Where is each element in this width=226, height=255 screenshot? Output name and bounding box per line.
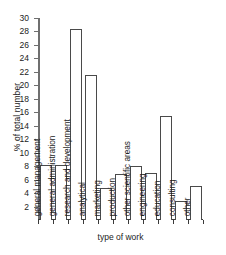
- y-tick-label: 2: [24, 203, 29, 212]
- y-tick: 28: [34, 31, 38, 32]
- bar-category-label: analytical: [79, 182, 87, 216]
- x-tick: [38, 220, 39, 224]
- y-tick: 14: [34, 126, 38, 127]
- y-tick-label: 22: [20, 68, 29, 77]
- y-tick-label: 30: [20, 14, 29, 23]
- y-tick-label: 8: [24, 162, 29, 171]
- bar-category-label: education: [154, 180, 162, 216]
- bar-category-label: production: [109, 178, 117, 216]
- x-tick: [68, 220, 69, 224]
- bar-category-label: other: [184, 197, 192, 216]
- y-tick-label: 20: [20, 81, 29, 90]
- x-axis-title: type of work: [38, 232, 203, 242]
- y-tick: 30: [34, 18, 38, 19]
- y-tick: 18: [34, 99, 38, 100]
- bar-category-label: general management: [34, 139, 42, 216]
- y-tick: 26: [34, 45, 38, 46]
- bar-category-label: engineering: [139, 173, 147, 216]
- bar-category-label: research and development: [64, 119, 72, 216]
- y-tick-label: 24: [20, 54, 29, 63]
- x-tick: [53, 220, 54, 224]
- bar-category-label: general administration: [49, 135, 57, 216]
- x-tick: [98, 220, 99, 224]
- y-tick-label: 16: [20, 108, 29, 117]
- y-tick-label: 4: [24, 189, 29, 198]
- y-tick-label: 26: [20, 41, 29, 50]
- x-tick: [203, 220, 204, 224]
- y-tick-label: 28: [20, 27, 29, 36]
- y-tick-label: 10: [20, 149, 29, 158]
- x-tick: [143, 220, 144, 224]
- x-tick: [173, 220, 174, 224]
- x-tick: [188, 220, 189, 224]
- bar-category-label: marketing: [94, 180, 102, 216]
- bar-chart: % of total number 2468101214161820222426…: [0, 0, 226, 255]
- plot-area: 24681012141618202224262830 general manag…: [38, 18, 203, 220]
- x-tick: [113, 220, 114, 224]
- x-tick: [158, 220, 159, 224]
- y-tick: 20: [34, 85, 38, 86]
- y-tick-label: 18: [20, 95, 29, 104]
- x-tick: [83, 220, 84, 224]
- y-tick: 22: [34, 72, 38, 73]
- y-tick-label: 6: [24, 176, 29, 185]
- y-tick: 16: [34, 112, 38, 113]
- bar-category-label: consulting: [169, 179, 177, 216]
- x-tick: [128, 220, 129, 224]
- y-tick-label: 14: [20, 122, 29, 131]
- y-tick: 24: [34, 58, 38, 59]
- bar-category-label: other scientific areas: [124, 141, 132, 216]
- y-tick-label: 12: [20, 135, 29, 144]
